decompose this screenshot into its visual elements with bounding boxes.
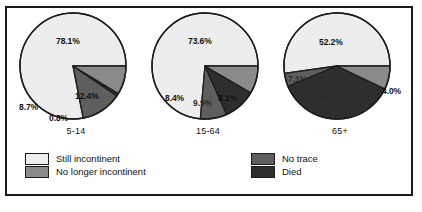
slice-value-1-died: 9.9% — [193, 98, 212, 108]
legend-swatch-no-trace — [251, 153, 275, 165]
pie-chart-15-64: 15-64 73.6% 8.1% 9.9% 8.4% — [143, 8, 273, 148]
slice-value-2-died: 36.6% — [319, 93, 343, 103]
legend-item-still-incontinent: Still incontinent — [25, 152, 146, 165]
slice-value-1-still-incontinent: 73.6% — [188, 36, 212, 46]
legend-item-died: Died — [251, 165, 318, 178]
slice-value-0-no-longer-incontinent: 8.7% — [19, 102, 38, 112]
slice-value-1-no-trace: 8.1% — [218, 93, 237, 103]
slice-value-1-no-longer-incontinent: 8.4% — [165, 93, 184, 103]
pie-category-label-1: 15-64 — [143, 126, 273, 136]
slice-value-0-no-trace: 12.4% — [75, 91, 99, 101]
pie-svg-1 — [143, 10, 273, 126]
legend-left: Still incontinent No longer incontinent — [25, 152, 146, 186]
legend-swatch-died — [251, 166, 275, 178]
pie-svg-2 — [275, 10, 405, 126]
pie-category-label-0: 5-14 — [11, 126, 141, 136]
slice-value-0-still-incontinent: 78.1% — [56, 36, 80, 46]
legend-item-no-longer-incontinent: No longer incontinent — [25, 165, 146, 178]
pie-chart-5-14: 5-14 78.1% 12.4% 0.8% 8.7% — [11, 8, 141, 148]
legend-label-no-trace: No trace — [282, 153, 318, 165]
pie-category-label-2: 65+ — [275, 126, 405, 136]
pie-chart-65-plus: 65+ 52.2% 4.0% 36.6% 7.1% — [275, 8, 405, 148]
pie-chart-group: 5-14 78.1% 12.4% 0.8% 8.7% 15-64 73.6% 8… — [7, 8, 411, 148]
legend-label-still-incontinent: Still incontinent — [56, 153, 120, 165]
legend-swatch-still-incontinent — [25, 153, 49, 165]
slice-value-0-died: 0.8% — [49, 113, 68, 123]
slice-value-2-no-trace: 4.0% — [382, 86, 401, 96]
legend-label-no-longer-incontinent: No longer incontinent — [56, 166, 146, 178]
slice-value-2-still-incontinent: 52.2% — [319, 37, 343, 47]
legend-right: No trace Died — [251, 152, 318, 186]
slice-value-2-no-longer-incontinent: 7.1% — [288, 74, 307, 84]
chart-figure-panel: 5-14 78.1% 12.4% 0.8% 8.7% 15-64 73.6% 8… — [5, 6, 413, 196]
legend-swatch-no-longer-incontinent — [25, 166, 49, 178]
legend-item-no-trace: No trace — [251, 152, 318, 165]
legend-label-died: Died — [282, 166, 302, 178]
